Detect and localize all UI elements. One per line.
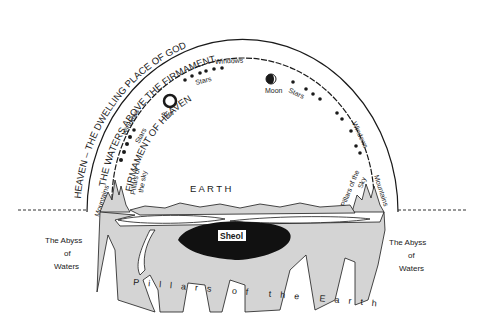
stars-top-left-label: Stars	[194, 75, 212, 86]
svg-text:Waters: Waters	[54, 262, 79, 271]
svg-text:of: of	[408, 251, 415, 260]
ancient-cosmology-diagram: HEAVEN – THE DWELLING PLACE OF GOD THE W…	[0, 0, 478, 329]
svg-text:Waters: Waters	[399, 264, 424, 273]
windows-top-label: Windows	[215, 56, 244, 65]
windows-right-label: Windows	[351, 120, 370, 149]
svg-text:The Abyss: The Abyss	[389, 238, 426, 247]
abyss-right: The Abyss of Waters	[389, 238, 426, 273]
stars-top-right-label: Stars	[288, 87, 306, 100]
svg-text:The Abyss: The Abyss	[45, 236, 82, 245]
earth-label: E A R T H	[190, 183, 232, 194]
sheol-label: Sheol	[220, 231, 243, 241]
stars-dots	[119, 66, 362, 162]
abyss-left: The Abyss of Waters	[45, 236, 82, 271]
earth-crust	[130, 203, 355, 215]
moon-label: Moon	[265, 87, 283, 94]
svg-text:of: of	[64, 249, 71, 258]
moon-icon	[266, 74, 276, 84]
